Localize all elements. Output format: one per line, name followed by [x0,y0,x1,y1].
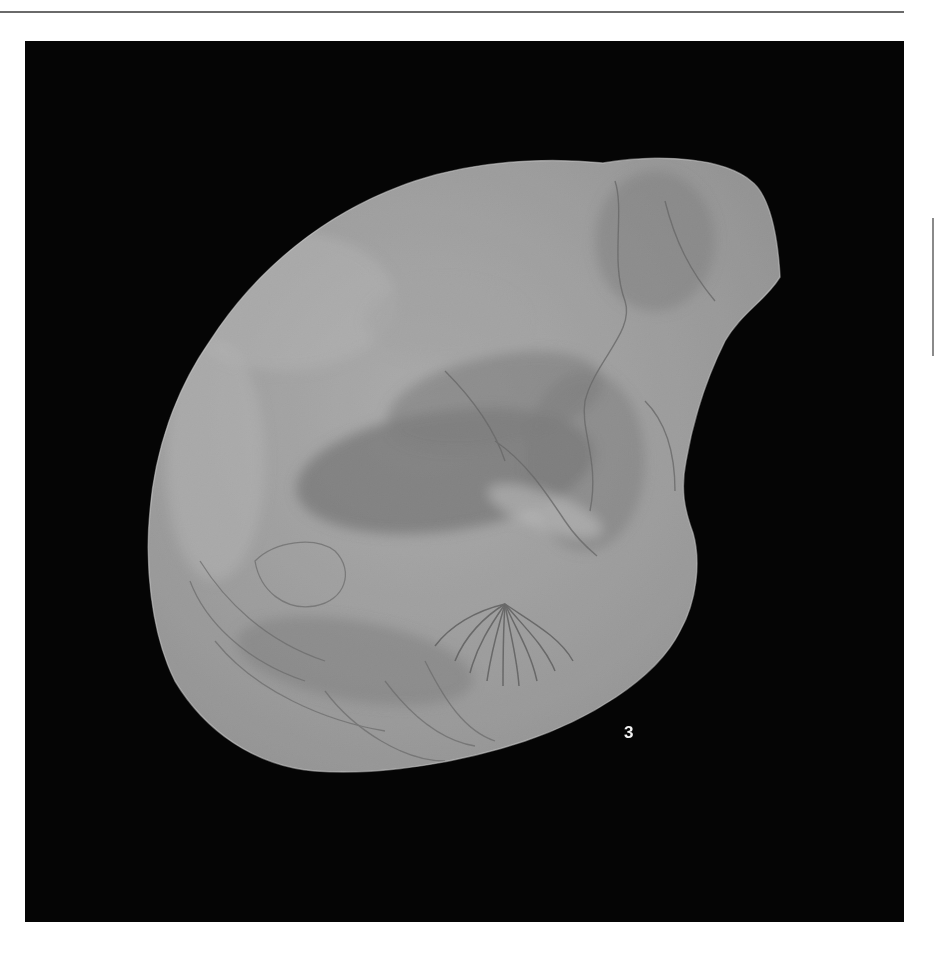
margin-mark [932,218,934,356]
photo-plate: 3 [25,41,904,922]
header-rule [0,11,904,13]
figure-number-label: 3 [624,724,633,741]
fossil-shell-image [25,41,904,922]
